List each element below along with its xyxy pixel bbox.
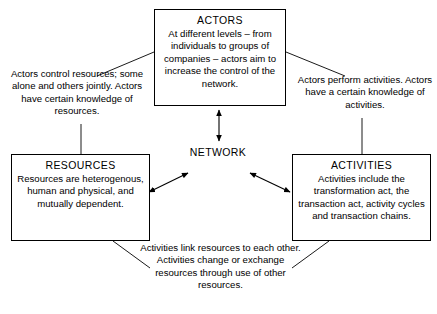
note-actors-resources: Actors control resources; some alone and…	[6, 68, 148, 118]
node-actors-body: At different levels – from individuals t…	[159, 28, 281, 90]
node-resources-title: RESOURCES	[16, 158, 145, 172]
leader-actors-right-note	[286, 52, 345, 76]
network-center-label: NETWORK	[168, 146, 268, 159]
node-actors[interactable]: ACTORS At different levels – from indivi…	[154, 9, 286, 106]
node-actors-title: ACTORS	[159, 13, 281, 27]
connector-network-activities	[250, 173, 290, 192]
node-resources-body: Resources are heterogenous, human and ph…	[16, 173, 145, 210]
node-resources[interactable]: RESOURCES Resources are heterogenous, hu…	[11, 154, 150, 241]
diagram-canvas: NETWORK : vertical double arrow --> RESO…	[0, 0, 437, 314]
note-resources-activities: Activities link resources to each other.…	[137, 242, 304, 292]
connector-network-resources	[149, 173, 188, 192]
node-activities-body: Activities include the transformation ac…	[297, 173, 426, 223]
node-activities-title: ACTIVITIES	[297, 158, 426, 172]
note-actors-activities: Actors perform activities. Actors have a…	[296, 74, 434, 111]
node-activities[interactable]: ACTIVITIES Activities include the transf…	[292, 154, 431, 241]
